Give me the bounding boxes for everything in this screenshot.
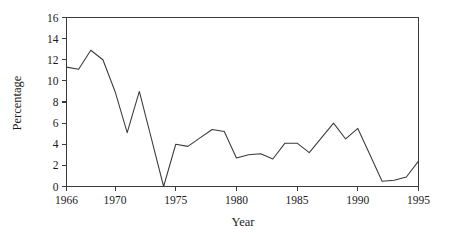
y-tick-label: 12: [47, 54, 59, 66]
y-axis-ticks: [62, 18, 67, 187]
y-tick-label: 10: [47, 75, 59, 87]
x-tick-label: 1995: [407, 194, 430, 206]
x-tick-label: 1980: [225, 194, 248, 206]
x-axis-ticks: [67, 187, 419, 192]
percentage-line-series: [67, 50, 419, 186]
x-tick-label: 1990: [346, 194, 369, 206]
y-tick-label: 4: [53, 138, 59, 150]
x-axis-title: Year: [231, 215, 255, 229]
y-axis-title: Percentage: [10, 75, 24, 130]
axis-frame: [67, 18, 419, 187]
x-tick-label: 1975: [164, 194, 187, 206]
y-tick-label: 0: [53, 181, 59, 193]
line-chart-canvas: 0246810121416 19661970197519801985199019…: [0, 0, 450, 233]
x-tick-label: 1966: [55, 194, 78, 206]
chart-figure: 0246810121416 19661970197519801985199019…: [0, 0, 450, 233]
x-axis-tick-labels: 1966197019751980198519901995: [55, 194, 430, 206]
x-tick-label: 1985: [286, 194, 309, 206]
y-tick-label: 16: [47, 12, 59, 24]
y-tick-label: 8: [53, 96, 59, 108]
x-tick-label: 1970: [104, 194, 127, 206]
data-series-group: [67, 50, 419, 186]
y-tick-label: 14: [47, 33, 59, 45]
plot-frame: [67, 18, 419, 187]
y-tick-label: 6: [53, 117, 59, 129]
y-tick-label: 2: [53, 159, 59, 171]
y-axis-tick-labels: 0246810121416: [47, 12, 59, 193]
